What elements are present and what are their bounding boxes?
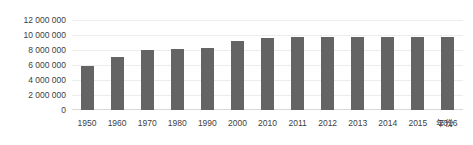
- bar: [411, 37, 424, 110]
- x-axis-tick-label: 2010: [253, 118, 282, 129]
- x-axis-tick-label: 2015: [403, 118, 432, 129]
- bar: [81, 66, 94, 110]
- bar: [381, 37, 394, 110]
- x-axis-tick-label: 1950: [73, 118, 102, 129]
- bar-series: [72, 20, 463, 110]
- plot-area: [72, 20, 463, 110]
- bar: [351, 37, 364, 110]
- bar: [201, 48, 214, 110]
- x-axis-tick-label: 2013: [343, 118, 372, 129]
- x-axis-title: 年份: [436, 118, 454, 129]
- y-axis-tick-label: 0: [0, 106, 66, 115]
- y-axis-tick-label: 2 000 000: [0, 91, 66, 100]
- x-axis-tick-label: 1980: [163, 118, 192, 129]
- x-axis-tick-label: 2014: [373, 118, 402, 129]
- bar-chart: 12 000 000 10 000 000 8 000 000 6 000 00…: [0, 0, 473, 145]
- bar: [231, 41, 244, 110]
- y-axis-tick-label: 4 000 000: [0, 76, 66, 85]
- x-axis-labels: 1950196019701980199020002010201120122013…: [72, 118, 463, 132]
- x-axis-tick-label: 2012: [313, 118, 342, 129]
- x-axis-tick-label: 1990: [193, 118, 222, 129]
- bar: [111, 57, 124, 110]
- y-axis-tick-label: 6 000 000: [0, 61, 66, 70]
- x-axis-tick-label: 1970: [133, 118, 162, 129]
- bar: [321, 37, 334, 110]
- x-axis-tick-label: 1960: [103, 118, 132, 129]
- y-axis-tick-label: 12 000 000: [0, 16, 66, 25]
- x-axis-tick-label: 2011: [283, 118, 312, 129]
- y-axis-tick-label: 10 000 000: [0, 31, 66, 40]
- bar: [291, 37, 304, 110]
- bar: [261, 38, 274, 110]
- bar: [441, 37, 454, 110]
- y-axis-labels: 12 000 000 10 000 000 8 000 000 6 000 00…: [0, 0, 66, 145]
- bar: [171, 49, 184, 111]
- bar: [141, 50, 154, 110]
- y-axis-tick-label: 8 000 000: [0, 46, 66, 55]
- x-axis-tick-label: 2000: [223, 118, 252, 129]
